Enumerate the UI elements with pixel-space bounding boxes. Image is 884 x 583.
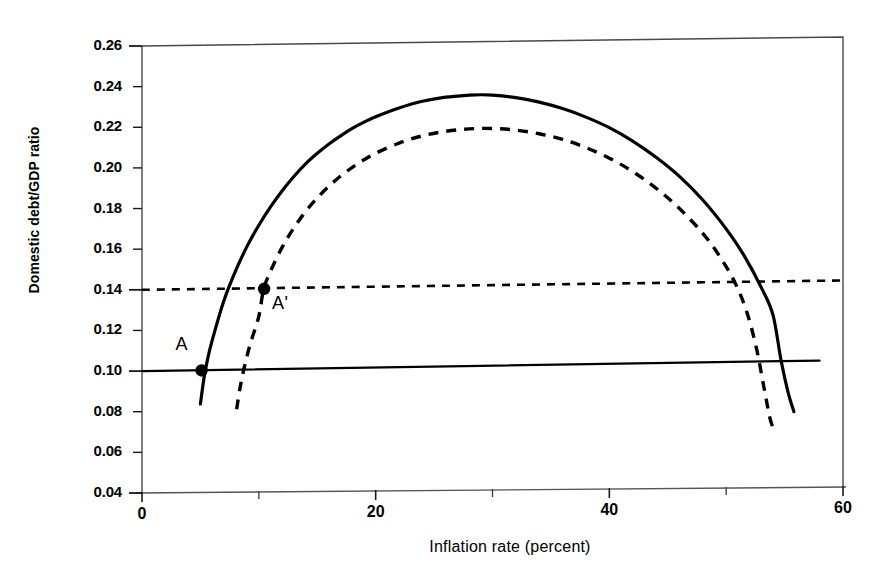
y-axis-title: Domestic debt/GDP ratio bbox=[22, 0, 46, 440]
y-tick-label: 0.04 bbox=[66, 483, 122, 500]
x-tick-label: 40 bbox=[589, 501, 629, 519]
chart-plot-area bbox=[0, 0, 884, 583]
plot-frame bbox=[142, 37, 843, 494]
y-tick-label: 0.06 bbox=[66, 442, 122, 459]
y-tick-label: 0.16 bbox=[66, 239, 122, 256]
seigniorage-laffer-curve-dashed bbox=[237, 128, 773, 427]
y-tick-label: 0.26 bbox=[66, 36, 122, 53]
annotation-label-a: A bbox=[176, 334, 189, 355]
y-tick-label: 0.12 bbox=[66, 320, 122, 337]
y-tick-label: 0.18 bbox=[66, 199, 122, 216]
x-axis-title: Inflation rate (percent) bbox=[340, 538, 680, 556]
chart-figure: Domestic debt/GDP ratio Inflation rate (… bbox=[0, 0, 884, 583]
annotation-label-a-prime: A' bbox=[272, 293, 288, 314]
y-tick-label: 0.14 bbox=[66, 280, 122, 297]
x-tick-label: 0 bbox=[122, 505, 162, 523]
y-tick-label: 0.24 bbox=[66, 77, 122, 94]
x-tick-label: 60 bbox=[823, 499, 863, 517]
y-tick-label: 0.20 bbox=[66, 158, 122, 175]
data-series-group bbox=[142, 95, 843, 428]
y-tick-label: 0.22 bbox=[66, 117, 122, 134]
x-tick-label: 20 bbox=[356, 503, 396, 521]
seigniorage-laffer-curve-solid bbox=[200, 95, 794, 412]
y-tick-label: 0.10 bbox=[66, 361, 122, 378]
x-axis-line bbox=[136, 487, 846, 493]
annotation-point-a bbox=[195, 364, 207, 376]
y-tick-label: 0.08 bbox=[66, 402, 122, 419]
annotation-point-a-prime bbox=[258, 283, 270, 295]
